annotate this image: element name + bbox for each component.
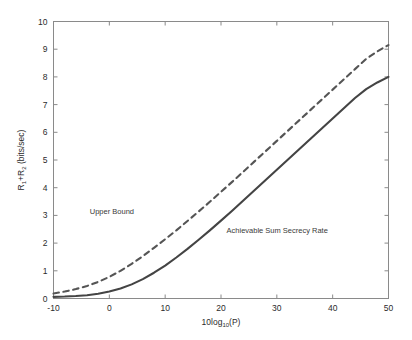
- x-axis-title-post: (P): [229, 317, 241, 327]
- x-tick-label-5: 40: [328, 303, 338, 313]
- y-tick-label-4: 4: [43, 183, 48, 193]
- x-tick-label-2: 10: [160, 303, 170, 313]
- x-tick-label-6: 50: [384, 303, 394, 313]
- y-tick-label-10: 10: [38, 17, 48, 27]
- y-axis-title-plus: +R: [16, 170, 26, 181]
- y-axis-title: R1+R2 (bits/sec): [16, 129, 27, 190]
- x-tick-label-0: -10: [47, 303, 60, 313]
- annotation-upper-bound: Upper Bound: [90, 207, 134, 216]
- y-tick-label-7: 7: [43, 100, 48, 110]
- chart-canvas: -1001020304050012345678910Upper BoundAch…: [0, 0, 412, 340]
- y-tick-label-1: 1: [43, 266, 48, 276]
- x-tick-label-1: 0: [107, 303, 112, 313]
- y-tick-label-2: 2: [43, 238, 48, 248]
- figure-container: -1001020304050012345678910Upper BoundAch…: [0, 0, 412, 340]
- y-tick-label-3: 3: [43, 210, 48, 220]
- y-tick-label-9: 9: [43, 44, 48, 54]
- annotation-achievable-rate: Achievable Sum Secrecy Rate: [227, 226, 328, 235]
- x-tick-label-4: 30: [272, 303, 282, 313]
- x-axis-title: 10log10(P): [202, 317, 241, 328]
- y-tick-label-0: 0: [43, 294, 48, 304]
- x-axis-title-pre: 10log: [202, 317, 223, 327]
- plot-frame: [54, 22, 389, 299]
- y-tick-label-8: 8: [43, 72, 48, 82]
- y-tick-label-6: 6: [43, 127, 48, 137]
- y-tick-label-5: 5: [43, 155, 48, 165]
- x-tick-label-3: 20: [216, 303, 226, 313]
- y-axis-title-units: (bits/sec): [16, 129, 26, 166]
